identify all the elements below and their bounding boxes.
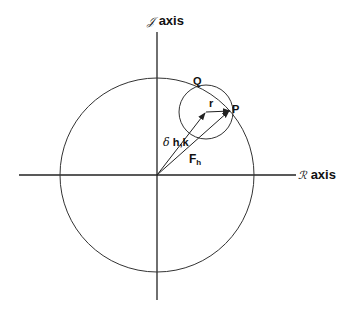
real-axis-label: ℛ axis: [298, 168, 336, 181]
real-axis-symbol: ℛ: [298, 169, 307, 182]
f-label-subscript: h: [196, 158, 201, 167]
imaginary-axis-label: 𝒥 axis: [147, 14, 184, 27]
delta-vector-label: δ h,k: [163, 137, 189, 148]
r-vector: [206, 111, 230, 112]
point-q-label: Q: [193, 76, 202, 87]
imaginary-axis-text: axis: [159, 13, 184, 28]
real-axis-text: axis: [311, 167, 336, 182]
delta-symbol: δ: [163, 136, 170, 149]
imaginary-axis-symbol: 𝒥: [147, 15, 155, 28]
phasor-diagram: [0, 0, 348, 317]
point-p-label: P: [232, 104, 239, 115]
r-vector-label: r: [209, 98, 213, 109]
delta-label-text: h,k: [173, 136, 189, 148]
f-h-vector-label: Fh: [189, 153, 201, 167]
